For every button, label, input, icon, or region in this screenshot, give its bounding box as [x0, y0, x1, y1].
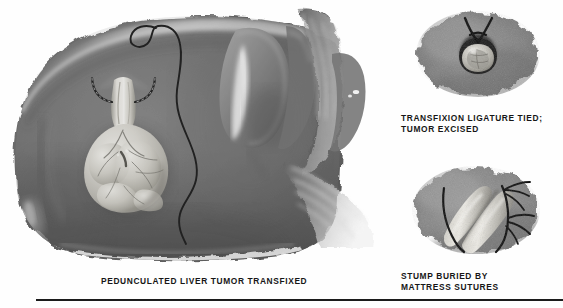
pedunculated-tumor: [84, 72, 170, 218]
tumor-lobules: [89, 140, 163, 211]
caption-bottom-right-figure: STUMP BURIED BY MATTRESS SUTURES: [401, 271, 499, 293]
omental-fibrous-strands: [284, 8, 373, 248]
buried-stump-ridge-left: [444, 186, 492, 247]
mattress-suture-right-strand: [496, 186, 508, 252]
tumor-pedicle: [111, 77, 136, 136]
liver-surface-patch: [414, 168, 538, 252]
mattress-suture-left-strand: [443, 188, 464, 252]
falciform-ligament: [284, 8, 373, 248]
ligature-knot: [470, 33, 486, 35]
liver: [16, 16, 344, 260]
excised-tumor-stump: [459, 34, 497, 74]
suture-thread: [131, 26, 197, 244]
illustration-plate: PEDUNCULATED LIVER TUMOR TRANSFIXED TRAN…: [0, 0, 563, 308]
highlight-fleck: [353, 90, 359, 94]
gallbladder: [220, 28, 290, 178]
transfixion-needle-arcs: [92, 78, 155, 102]
page-footer-rule: [36, 299, 563, 301]
stump-cut-surface: [462, 44, 494, 72]
liver-right-lobe-fold: [278, 26, 316, 149]
gallbladder-highlight: [232, 44, 248, 140]
mattress-suture-upper: [504, 182, 530, 210]
caption-main-figure: PEDUNCULATED LIVER TUMOR TRANSFIXED: [101, 276, 307, 287]
mattress-sutures: [443, 182, 534, 252]
figure-stump-buried-mattress-sutures: [398, 160, 558, 266]
figure-pedunculated-liver-tumor: [0, 0, 375, 272]
ligature-thread-tails: [465, 18, 492, 42]
mattress-suture-lower: [506, 215, 534, 244]
caption-top-right-figure: TRANSFIXION LIGATURE TIED; TUMOR EXCISED: [401, 113, 543, 135]
ligature-collar: [459, 38, 497, 74]
liver-surface-patch: [418, 13, 538, 95]
liver-superior-edge-highlight: [20, 19, 306, 110]
cystic-duct: [248, 148, 268, 178]
liver-inferior-brush-edge: [40, 246, 306, 264]
buried-stump-ridge-right: [462, 190, 514, 253]
figure-transfixion-ligature-tied: [398, 4, 558, 110]
